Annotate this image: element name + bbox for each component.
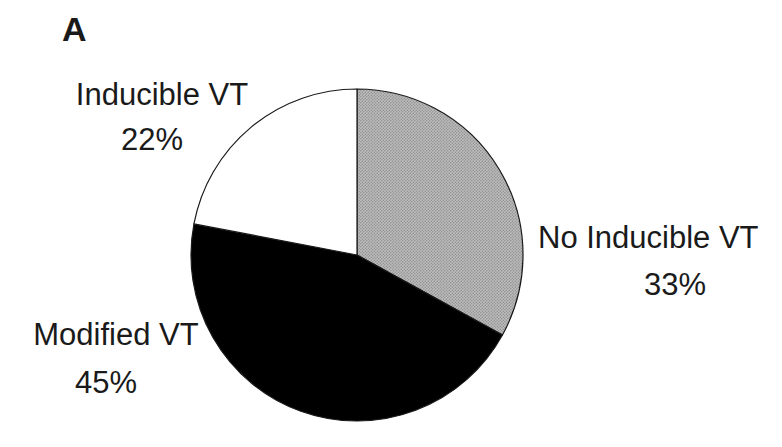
slice-pct-modified-vt: 45% — [0, 365, 216, 401]
slice-pct-no-inducible-vt: 33% — [565, 267, 782, 303]
figure-panel-a: A Inducible VT 22% No Inducible VT 33% M… — [0, 0, 782, 447]
slice-label-no-inducible-vt: No Inducible VT — [538, 220, 758, 256]
slice-label-inducible-vt: Inducible VT — [52, 77, 272, 113]
slice-label-modified-vt: Modified VT — [6, 317, 226, 353]
slice-pct-inducible-vt: 22% — [42, 122, 262, 158]
